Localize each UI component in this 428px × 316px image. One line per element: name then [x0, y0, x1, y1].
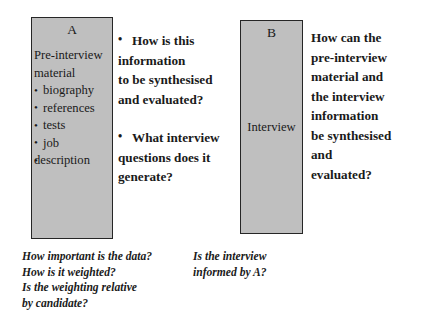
box-a-lead-line-1: Pre-interview [34, 47, 111, 65]
box-a-lead-line-2: material [34, 65, 111, 83]
box-b-letter: B [241, 25, 302, 41]
question-line: generate? [118, 167, 236, 187]
list-item: references [34, 100, 111, 118]
middle-question-2: What interview questions does it generat… [118, 128, 236, 187]
question-line: be synthesised [311, 126, 423, 146]
question-line: information [311, 106, 423, 126]
question-line: evaluated? [311, 165, 423, 185]
question-line: How can the [311, 28, 423, 48]
note-line: by candidate? [22, 296, 192, 312]
question-line: What interview [132, 128, 236, 148]
box-b: B Interview [240, 20, 303, 234]
list-item-continuation: description [34, 152, 111, 170]
list-item: job [34, 135, 111, 153]
note-right: Is the interview informed by A? [193, 249, 323, 280]
question-line: and [311, 145, 423, 165]
question-line: pre-interview [311, 48, 423, 68]
note-line: How important is the data? [22, 249, 192, 265]
question-line: questions does it [118, 148, 236, 168]
box-b-label: Interview [241, 119, 302, 135]
box-a-letter: A [32, 22, 112, 38]
question-line: the interview [311, 87, 423, 107]
box-a-item-list: biography references tests job descripti… [34, 82, 111, 170]
question-line: to be synthesised [118, 70, 236, 90]
list-item: biography [34, 82, 111, 100]
question-line: material and [311, 67, 423, 87]
right-question-column: How can the pre-interview material and t… [311, 28, 423, 184]
question-line: and evaluated? [118, 90, 236, 110]
note-line: Is the weighting relative [22, 280, 192, 296]
note-line: Is the interview [193, 249, 323, 265]
note-line: informed by A? [193, 265, 323, 281]
list-item: tests [34, 117, 111, 135]
note-left: How important is the data? How is it wei… [22, 249, 192, 311]
box-a-body: Pre-interview material biography referen… [34, 47, 111, 170]
note-line: How is it weighted? [22, 265, 192, 281]
question-line: information [118, 51, 236, 71]
diagram-canvas: A Pre-interview material biography refer… [0, 0, 428, 316]
middle-question-column: How is this information to be synthesise… [118, 31, 236, 187]
box-a: A Pre-interview material biography refer… [31, 17, 113, 239]
middle-question-1: How is this information to be synthesise… [118, 31, 236, 109]
question-line: How is this [132, 31, 236, 51]
